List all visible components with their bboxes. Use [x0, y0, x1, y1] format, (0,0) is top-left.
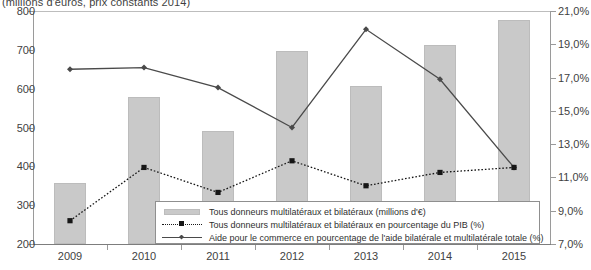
right-axis-tick-label: 7,0%	[558, 238, 583, 250]
dotted-line-swatch-icon	[160, 219, 204, 231]
left-axis-tick-label: 300	[17, 199, 35, 211]
aide-commerce-line	[70, 29, 514, 167]
x-axis-tick-label: 2011	[206, 250, 230, 262]
left-axis-tick-label: 700	[17, 44, 35, 56]
aide-commerce-markers	[67, 26, 517, 170]
aide-marker-2011	[215, 85, 221, 91]
x-axis-tick-label: 2015	[502, 250, 526, 262]
left-axis-tick-label: 600	[17, 83, 35, 95]
right-axis-tick-label: 9,0%	[558, 205, 583, 217]
x-axis-tick	[477, 245, 478, 250]
x-axis-tick-label: 2014	[428, 250, 452, 262]
left-axis-tick-label: 800	[17, 5, 35, 17]
right-axis-tick	[551, 44, 556, 45]
legend-label-aide: Aide pour le commerce en pourcentage de …	[209, 233, 543, 243]
x-axis-tick	[403, 245, 404, 250]
x-axis-tick	[107, 245, 108, 250]
right-axis-tick	[551, 211, 556, 212]
right-axis-tick-label: 11,0%	[558, 171, 588, 183]
left-axis-tick-label: 200	[17, 238, 35, 250]
legend-label-pib: Tous donneurs multilatéraux et bilatérau…	[209, 220, 484, 230]
pib-marker-2011	[215, 190, 220, 195]
pib-marker-2010	[141, 165, 146, 170]
aide-marker-2010	[141, 65, 147, 71]
right-axis-tick-label: 17,0%	[558, 72, 589, 84]
x-axis-tick	[255, 245, 256, 250]
x-axis-tick-label: 2009	[58, 250, 82, 262]
aide-marker-2009	[67, 66, 73, 72]
pib-marker-2014	[437, 170, 442, 175]
legend-item-aide: Aide pour le commerce en pourcentage de …	[160, 231, 535, 244]
right-axis-tick	[551, 177, 556, 178]
right-axis-tick	[551, 244, 556, 245]
bar-swatch-icon	[160, 206, 204, 218]
right-axis-tick	[551, 11, 556, 12]
right-axis-tick	[551, 144, 556, 145]
right-axis-tick-label: 21,0%	[558, 5, 589, 17]
right-axis-tick-label: 19,0%	[558, 38, 589, 50]
right-axis-tick	[551, 111, 556, 112]
x-axis-tick	[329, 245, 330, 250]
legend-item-pib: Tous donneurs multilatéraux et bilatérau…	[160, 218, 535, 231]
chart-legend: Tous donneurs multilatéraux et bilatérau…	[155, 201, 540, 244]
solid-line-swatch-icon	[160, 232, 204, 244]
chart-container: (millions d'euros, prix constants 2014) …	[0, 0, 591, 270]
pib-marker-2009	[67, 218, 72, 223]
pib-marker-2012	[289, 158, 294, 163]
left-axis-tick-label: 500	[17, 122, 35, 134]
left-axis-tick-label: 400	[17, 160, 35, 172]
x-axis-tick-label: 2013	[354, 250, 378, 262]
pib-marker-2013	[363, 183, 368, 188]
right-axis-tick-label: 13,0%	[558, 138, 589, 150]
x-axis-tick	[181, 245, 182, 250]
x-axis-tick-label: 2012	[280, 250, 304, 262]
legend-label-bars: Tous donneurs multilatéraux et bilatérau…	[209, 207, 426, 217]
right-axis-tick-label: 15,0%	[558, 105, 589, 117]
legend-item-bars: Tous donneurs multilatéraux et bilatérau…	[160, 205, 535, 218]
pib-marker-2015	[511, 165, 516, 170]
x-axis-tick-label: 2010	[132, 250, 156, 262]
right-axis-tick	[551, 78, 556, 79]
